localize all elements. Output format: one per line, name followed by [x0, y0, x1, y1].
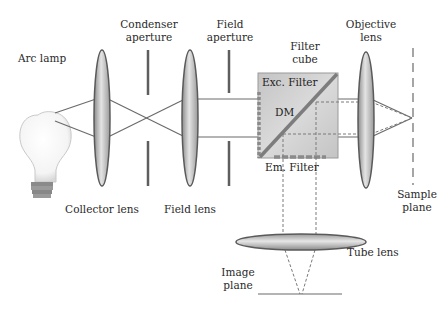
label-condenser-aperture-line2: aperture — [118, 31, 180, 44]
label-filter-cube-line1: Filter — [280, 40, 330, 53]
label-filter-cube-line2: cube — [280, 53, 330, 66]
label-objective-lens-line2: lens — [336, 31, 406, 44]
label-field-aperture: Field aperture — [200, 18, 260, 44]
field-lens — [182, 50, 198, 186]
label-field-aperture-line1: Field — [200, 18, 260, 31]
label-image-plane-line2: plane — [218, 279, 258, 292]
label-dm: DM — [275, 106, 294, 118]
collector-lens — [94, 50, 110, 186]
label-condenser-aperture: Condenser aperture — [118, 18, 180, 44]
objective-lens — [358, 52, 374, 188]
label-sample-plane: Sample plane — [393, 188, 441, 214]
label-filter-cube: Filter cube — [280, 40, 330, 66]
label-exc-filter: Exc. Filter — [262, 76, 318, 88]
label-image-plane-line1: Image — [218, 266, 258, 279]
label-collector-lens: Collector lens — [62, 203, 142, 216]
label-condenser-aperture-line1: Condenser — [118, 18, 180, 31]
label-field-lens: Field lens — [160, 203, 220, 216]
label-objective-lens: Objective lens — [336, 18, 406, 44]
label-sample-plane-line2: plane — [393, 201, 441, 214]
label-image-plane: Image plane — [218, 266, 258, 292]
label-tube-lens: Tube lens — [347, 246, 399, 259]
label-em-filter: Em. Filter — [265, 161, 319, 173]
label-field-aperture-line2: aperture — [200, 31, 260, 44]
label-arc-lamp: Arc lamp — [18, 52, 66, 65]
label-objective-lens-line1: Objective — [336, 18, 406, 31]
microscope-diagram — [0, 0, 445, 311]
label-sample-plane-line1: Sample — [393, 188, 441, 201]
